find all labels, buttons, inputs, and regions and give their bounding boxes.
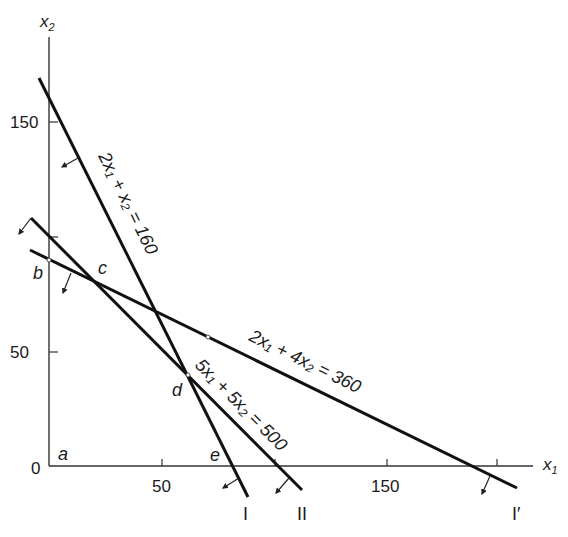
vertex-label-d: d: [172, 380, 183, 400]
arrow-line-I-top: [62, 158, 78, 167]
x-axis-label-sub: 1: [552, 464, 558, 476]
vertex-label-e: e: [210, 445, 220, 465]
constraint-line-II: [31, 218, 302, 490]
vertex-dot-mid: [206, 335, 210, 339]
equation-label-I: 2x₁ + x₂ = 160: [94, 148, 162, 258]
origin-label: 0: [31, 459, 40, 478]
arrow-line-I-prime-left: [63, 273, 71, 293]
constraint-line-I-prime: [30, 250, 517, 488]
arrow-line-II-top: [19, 218, 31, 234]
arrow-line-I-bottom: [223, 478, 239, 488]
y-tick-label-50: 50: [10, 343, 29, 362]
vertex-label-c: c: [98, 258, 107, 278]
x-tick-label-50: 50: [152, 477, 171, 496]
arrow-line-I-prime-right: [482, 476, 490, 494]
y-tick-label-150: 150: [10, 113, 38, 132]
vertex-label-a: a: [58, 444, 68, 464]
line-label-I-prime: I′: [512, 504, 521, 524]
x-axis-label-main: x: [542, 455, 552, 474]
line-label-II: II: [297, 504, 307, 524]
equation-label-I-prime: 2x₁ + 4x₂ = 360: [245, 325, 364, 397]
vertex-dot-d: [186, 373, 190, 377]
vertex-dot-b: [47, 258, 51, 262]
lp-diagram: 50 150 50 150 0 x2 x1 2x₁ + x₂ = 160 5x₁…: [0, 0, 568, 537]
x-tick-label-150: 150: [371, 477, 399, 496]
y-axis-label-main: x: [39, 12, 49, 31]
x-axis-label: x1: [542, 455, 558, 476]
line-label-I: I: [243, 504, 248, 524]
vertex-label-b: b: [33, 263, 43, 283]
constraint-line-I: [39, 78, 248, 497]
y-axis-label-sub: 2: [48, 21, 55, 33]
arrow-line-II-bottom: [276, 478, 289, 493]
axes: 50 150 50 150 0 x2 x1: [10, 12, 558, 496]
y-axis-label: x2: [39, 12, 55, 33]
